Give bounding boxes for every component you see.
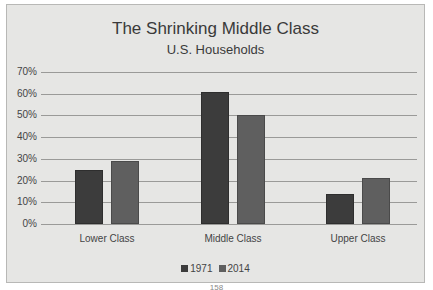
plot-area: 0%10%20%30%40%50%60%70%Lower ClassMiddle… [7, 5, 424, 282]
gridline [41, 159, 417, 160]
y-tick-label: 10% [7, 196, 37, 207]
y-tick-label: 70% [7, 66, 37, 77]
bar-1971-lower-class [75, 170, 103, 224]
y-tick-label: 30% [7, 153, 37, 164]
legend-label: 2014 [228, 263, 250, 274]
bar-1971-middle-class [201, 92, 229, 224]
chart-container: The Shrinking Middle Class U.S. Househol… [6, 4, 425, 283]
y-tick-label: 60% [7, 88, 37, 99]
bar-1971-upper-class [326, 194, 354, 224]
legend-item: 1971 [181, 263, 212, 274]
legend: 19712014 [7, 263, 424, 274]
gridline [41, 115, 417, 116]
y-tick-label: 40% [7, 131, 37, 142]
x-category-label: Upper Class [308, 233, 408, 244]
y-tick-label: 0% [7, 218, 37, 229]
x-category-label: Middle Class [183, 233, 283, 244]
legend-label: 1971 [190, 263, 212, 274]
x-category-label: Lower Class [57, 233, 157, 244]
bar-2014-middle-class [237, 115, 265, 224]
gridline [41, 137, 417, 138]
page-number: 158 [0, 283, 433, 290]
gridline [41, 94, 417, 95]
legend-swatch-icon [181, 265, 188, 272]
legend-item: 2014 [219, 263, 250, 274]
bar-2014-upper-class [362, 178, 390, 224]
bar-2014-lower-class [111, 161, 139, 224]
gridline [41, 72, 417, 73]
gridline [41, 224, 417, 225]
legend-swatch-icon [219, 265, 226, 272]
y-tick-label: 20% [7, 175, 37, 186]
y-tick-label: 50% [7, 109, 37, 120]
